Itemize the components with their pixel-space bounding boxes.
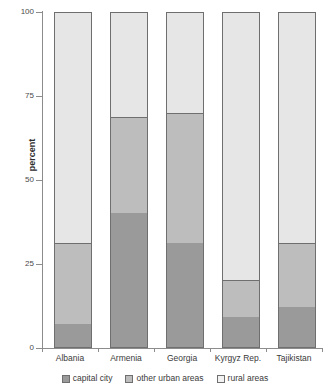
x-tick-5 bbox=[322, 348, 323, 352]
bar-segment-capital-city bbox=[223, 317, 259, 347]
x-tick-0 bbox=[42, 348, 43, 352]
plot-area bbox=[42, 12, 322, 348]
legend-label-other-urban-areas: other urban areas bbox=[136, 374, 203, 383]
y-tick-label-25: 25 bbox=[0, 260, 34, 268]
legend-label-capital-city: capital city bbox=[73, 374, 113, 383]
legend-item-capital-city[interactable]: capital city bbox=[62, 374, 113, 383]
bar-segment-capital-city bbox=[111, 213, 147, 347]
bar-armenia[interactable] bbox=[110, 12, 148, 348]
bar-segment-capital-city bbox=[279, 307, 315, 347]
bar-segment-rural-areas bbox=[167, 13, 203, 113]
x-label-armenia: Armenia bbox=[94, 353, 158, 363]
x-label-tajikistan: Tajikistan bbox=[262, 353, 326, 363]
bar-segment-other-urban-areas bbox=[55, 243, 91, 323]
stacked-bar-chart: percent 100 75 50 25 0 bbox=[0, 0, 330, 392]
legend-swatch-icon bbox=[125, 375, 133, 383]
bar-segment-other-urban-areas bbox=[279, 243, 315, 306]
x-label-albania: Albania bbox=[38, 353, 102, 363]
bar-segment-rural-areas bbox=[55, 13, 91, 243]
x-label-georgia: Georgia bbox=[150, 353, 214, 363]
x-tick-4 bbox=[266, 348, 267, 352]
y-tick-label-0: 0 bbox=[0, 344, 34, 352]
x-tick-2 bbox=[154, 348, 155, 352]
bar-segment-rural-areas bbox=[279, 13, 315, 243]
y-tick-label-50: 50 bbox=[0, 176, 34, 184]
bar-segment-rural-areas bbox=[111, 13, 147, 117]
bar-segment-other-urban-areas bbox=[111, 117, 147, 214]
x-axis-line bbox=[42, 348, 323, 349]
x-tick-3 bbox=[210, 348, 211, 352]
bar-segment-other-urban-areas bbox=[167, 113, 203, 243]
legend-item-other-urban-areas[interactable]: other urban areas bbox=[125, 374, 203, 383]
legend-item-rural-areas[interactable]: rural areas bbox=[217, 374, 269, 383]
bar-segment-other-urban-areas bbox=[223, 280, 259, 317]
bar-albania[interactable] bbox=[54, 12, 92, 348]
legend-swatch-icon bbox=[217, 375, 225, 383]
bar-segment-capital-city bbox=[55, 324, 91, 347]
bar-georgia[interactable] bbox=[166, 12, 204, 348]
legend-label-rural-areas: rural areas bbox=[228, 374, 269, 383]
legend-swatch-icon bbox=[62, 375, 70, 383]
y-tick-label-75: 75 bbox=[0, 92, 34, 100]
chart-legend: capital city other urban areas rural are… bbox=[0, 374, 330, 383]
bar-kyrgyz-rep[interactable] bbox=[222, 12, 260, 348]
y-tick-label-100: 100 bbox=[0, 8, 34, 16]
x-label-kyrgyz-rep: Kyrgyz Rep. bbox=[206, 353, 270, 363]
bar-tajikistan[interactable] bbox=[278, 12, 316, 348]
bar-segment-rural-areas bbox=[223, 13, 259, 280]
bar-segment-capital-city bbox=[167, 243, 203, 347]
x-tick-1 bbox=[98, 348, 99, 352]
